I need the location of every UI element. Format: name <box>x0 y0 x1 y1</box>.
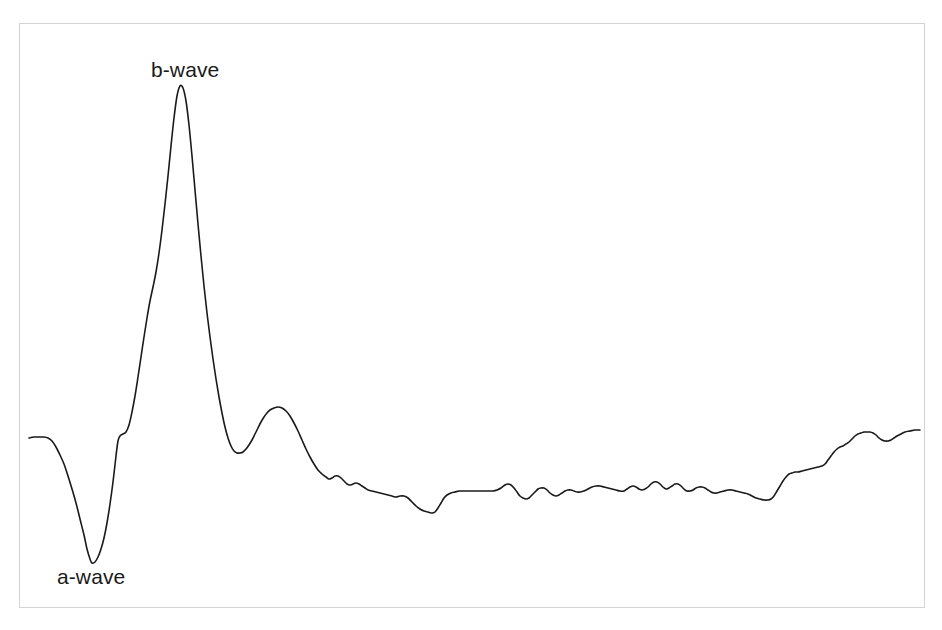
a-wave-annotation-label: a-wave <box>57 565 125 589</box>
erg-figure: b-wave a-wave <box>0 0 942 630</box>
b-wave-annotation-label: b-wave <box>151 58 219 82</box>
plot-frame <box>19 23 925 608</box>
